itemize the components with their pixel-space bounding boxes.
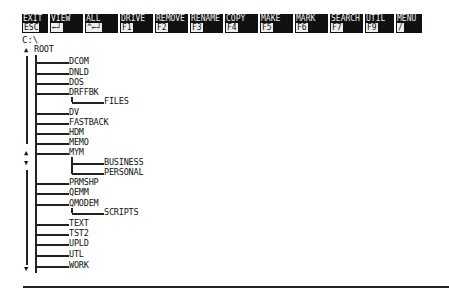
status-divider	[23, 286, 449, 288]
tree-node-hdm[interactable]: HDM	[69, 128, 84, 137]
tree-node-root[interactable]: ROOT	[34, 45, 54, 54]
scrollbar-track-lower[interactable]	[26, 170, 28, 265]
directory-tree: ▲ ▲ ▼ ▼ ROOT DCOM DNLD DOS DRFFBK FILES …	[0, 0, 449, 295]
tree-node-memo[interactable]: MEMO	[69, 138, 89, 147]
tree-node-utl[interactable]: UTL	[69, 250, 84, 259]
scroll-up-arrow-icon[interactable]: ▲	[24, 150, 28, 157]
tree-trunk	[35, 55, 37, 273]
tree-node-qemm[interactable]: QEMM	[69, 188, 89, 197]
tree-node-upld[interactable]: UPLD	[69, 239, 89, 248]
tree-node-scripts[interactable]: SCRIPTS	[104, 208, 138, 217]
tree-node-qmodem[interactable]: QMODEM	[69, 199, 99, 208]
tree-node-personal[interactable]: PERSONAL	[104, 168, 143, 177]
tree-node-tst2[interactable]: TST2	[69, 229, 89, 238]
tree-node-drffbk[interactable]: DRFFBK	[69, 88, 99, 97]
scroll-down-arrow-icon[interactable]: ▼	[24, 160, 28, 167]
tree-node-dcom[interactable]: DCOM	[69, 57, 89, 66]
tree-node-dv[interactable]: DV	[69, 108, 79, 117]
scroll-up-arrow-icon[interactable]: ▲	[24, 47, 28, 54]
tree-node-mym[interactable]: MYM	[69, 148, 84, 157]
tree-node-prmshp[interactable]: PRMSHP	[69, 178, 99, 187]
scrollbar-track-upper[interactable]	[26, 56, 28, 144]
tree-node-text[interactable]: TEXT	[69, 219, 89, 228]
tree-node-work[interactable]: WORK	[69, 261, 89, 270]
tree-node-dnld[interactable]: DNLD	[69, 68, 89, 77]
tree-node-fastback[interactable]: FASTBACK	[69, 118, 108, 127]
tree-node-files[interactable]: FILES	[104, 97, 129, 106]
tree-node-business[interactable]: BUSINESS	[104, 158, 143, 167]
scroll-down-arrow-icon[interactable]: ▼	[24, 266, 28, 273]
tree-node-dos[interactable]: DOS	[69, 78, 84, 87]
